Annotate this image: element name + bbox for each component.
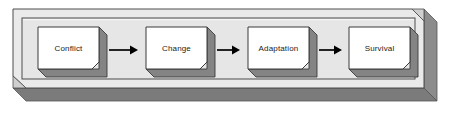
frame-inner-highlight <box>23 19 414 20</box>
diagram-canvas: Conflict Change Adaptation Survival <box>0 0 459 114</box>
node-conflict[interactable]: Conflict <box>38 27 107 77</box>
node-survival[interactable]: Survival <box>349 27 418 77</box>
node-conflict-label: Conflict <box>55 44 84 53</box>
frame-bottom-extrusion <box>13 88 437 101</box>
process-flow-diagram: Conflict Change Adaptation Survival <box>0 0 459 114</box>
frame-right-extrusion <box>424 9 437 101</box>
node-adaptation-label: Adaptation <box>259 44 299 53</box>
node-change-label: Change <box>162 44 191 53</box>
node-change[interactable]: Change <box>146 27 215 77</box>
node-survival-label: Survival <box>365 44 395 53</box>
node-adaptation[interactable]: Adaptation <box>248 27 317 77</box>
